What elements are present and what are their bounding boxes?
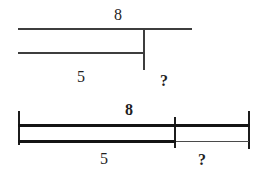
bottom-divider-tick xyxy=(174,117,176,148)
bottom-total-label: 8 xyxy=(118,101,140,118)
comparison-diagram: 8 5 ? 8 5 ? xyxy=(0,0,264,186)
bottom-right-end-tick xyxy=(248,111,250,149)
top-divider-tick xyxy=(143,28,145,70)
top-total-line xyxy=(18,28,192,30)
bottom-part-label: 5 xyxy=(93,150,115,167)
bottom-unknown-label: ? xyxy=(191,151,213,168)
top-unknown-label: ? xyxy=(153,72,175,89)
bottom-total-bar xyxy=(18,124,250,127)
bottom-remainder-line xyxy=(176,141,249,142)
bottom-part-bar xyxy=(18,140,176,143)
top-part-label: 5 xyxy=(70,68,92,85)
top-total-label: 8 xyxy=(107,6,129,23)
top-part-line xyxy=(18,52,144,54)
